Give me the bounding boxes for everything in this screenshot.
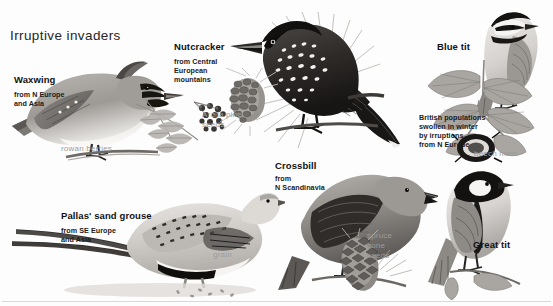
- food-caption-arolla-pine-seeds: Arolla pine seeds: [202, 110, 242, 130]
- species-origin-nutcracker: from Central European mountains: [174, 58, 217, 85]
- species-label-waxwing: Waxwing: [14, 74, 56, 85]
- food-caption-rowan-berries: rowan berries: [61, 144, 112, 154]
- food-caption-spruce-cone-seeds: spruce cone seeds: [367, 231, 392, 260]
- species-label-great-tit: Great tit: [473, 239, 510, 250]
- species-label-pallas-sand-grouse: Pallas' sand grouse: [61, 210, 152, 221]
- food-caption-grain: grain: [213, 250, 232, 260]
- species-label-blue-tit: Blue tit: [437, 41, 470, 52]
- species-label-crossbill: Crossbill: [275, 160, 317, 171]
- page-title: Irruptive invaders: [10, 28, 121, 43]
- pallas-sand-grouse-illustration: [10, 168, 285, 300]
- species-origin-waxwing: from N Europe and Asia: [14, 91, 65, 109]
- food-caption-beech-mast: beech mast: [474, 149, 517, 159]
- great-tit-illustration: [420, 160, 550, 300]
- species-origin-blue-tit: British populations swollen in winter by…: [419, 114, 485, 150]
- species-label-nutcracker: Nutcracker: [174, 41, 225, 52]
- bottom-divider: [2, 301, 551, 302]
- species-origin-pallas-sand-grouse: from SE Europe and Asia: [61, 227, 116, 245]
- illustration-plate: Irruptive invaders Waxwing from N Europe…: [0, 0, 553, 306]
- species-origin-crossbill: from N Scandinavia: [275, 175, 325, 193]
